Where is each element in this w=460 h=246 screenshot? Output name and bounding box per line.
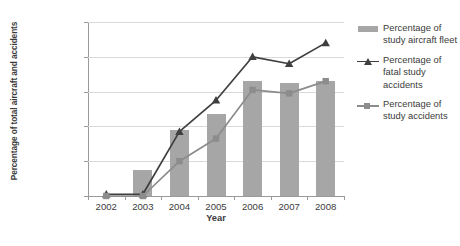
line-series-overlay xyxy=(88,22,344,196)
x-axis-tick-mark xyxy=(88,196,89,200)
x-axis-tick-label-2007: 2007 xyxy=(269,201,309,212)
x-axis-tick-label-2006: 2006 xyxy=(233,201,273,212)
x-axis-tick-mark xyxy=(161,196,162,200)
legend-triangle-line-icon xyxy=(357,57,379,65)
x-axis-tick-mark xyxy=(344,196,345,200)
marker-accidents-2006 xyxy=(249,87,255,93)
marker-fatal-2006 xyxy=(248,53,256,60)
legend-label: Percentage of fatal study accidents xyxy=(383,54,460,91)
marker-accidents-2007 xyxy=(286,90,292,96)
legend-label: Percentage of study aircraft fleet xyxy=(383,22,460,47)
marker-fatal-2008 xyxy=(322,39,330,46)
marker-accidents-2008 xyxy=(323,78,329,84)
marker-accidents-2002 xyxy=(103,193,109,199)
x-axis-tick-mark xyxy=(307,196,308,200)
legend-square-line-icon xyxy=(357,101,379,109)
chart-container: Percentage of total aircraft and acciden… xyxy=(0,0,460,246)
x-axis-tick-mark xyxy=(125,196,126,200)
line-path-fatal-study-accidents xyxy=(106,43,325,194)
x-axis-tick-label-2005: 2005 xyxy=(196,201,236,212)
x-axis-tick-label-2002: 2002 xyxy=(86,201,126,212)
x-axis-tick-mark xyxy=(271,196,272,200)
legend-bar-swatch-icon xyxy=(357,25,379,33)
x-axis-tick-mark xyxy=(198,196,199,200)
chart-legend: Percentage of study aircraft fleetPercen… xyxy=(357,22,460,130)
x-axis-tick-label-2008: 2008 xyxy=(306,201,346,212)
marker-accidents-2004 xyxy=(176,158,182,164)
y-axis-title: Percentage of total aircraft and acciden… xyxy=(9,1,19,201)
marker-accidents-2003 xyxy=(140,193,146,199)
legend-entry-3: Percentage of study accidents xyxy=(357,98,460,123)
triangle-marker-icon xyxy=(364,58,372,65)
bar-swatch-icon xyxy=(358,26,378,32)
legend-entry-1: Percentage of study aircraft fleet xyxy=(357,22,460,47)
square-marker-icon xyxy=(364,103,370,109)
x-axis-tick-label-2004: 2004 xyxy=(159,201,199,212)
x-axis-tick-label-2003: 2003 xyxy=(123,201,163,212)
legend-label: Percentage of study accidents xyxy=(383,98,460,123)
x-axis-tick-mark xyxy=(234,196,235,200)
plot-area xyxy=(88,22,344,196)
x-axis-title: Year xyxy=(88,213,344,223)
marker-accidents-2005 xyxy=(213,135,219,141)
legend-entry-2: Percentage of fatal study accidents xyxy=(357,54,460,91)
